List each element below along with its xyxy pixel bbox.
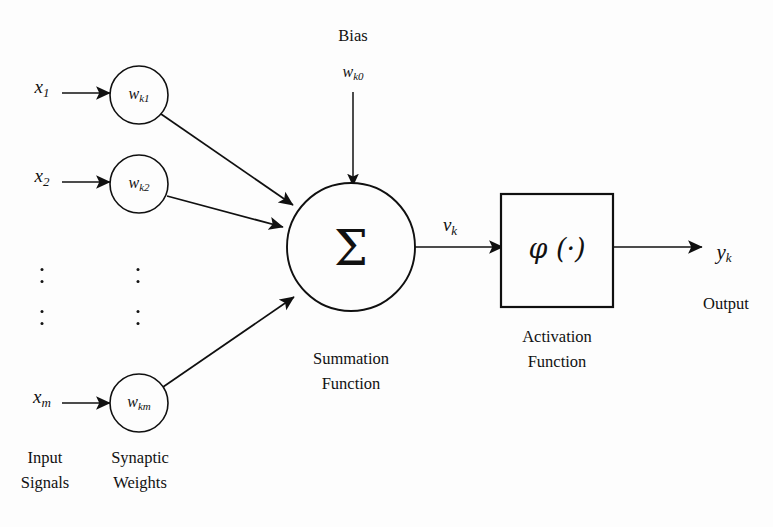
connection-wk1-to-sum [161, 114, 293, 205]
ellipsis-dot [137, 310, 140, 313]
activation-caption: Activation Function [522, 325, 592, 375]
bias-label: Bias [338, 28, 367, 45]
weight-label-wk1: wk1 [128, 86, 149, 104]
ellipsis-dot [41, 280, 44, 283]
summation-caption: Summation Function [313, 347, 389, 397]
activation-caption-line-2: Function [522, 350, 592, 375]
connection-wkm-to-sum [163, 297, 294, 387]
ellipsis-dot [41, 268, 44, 271]
neuron-model-diagram: x1 x2 xm wk1 wk2 wkm Bias wk0 Σ Summatio… [0, 0, 773, 527]
weight-label-wk2: wk2 [128, 175, 149, 193]
ellipsis-dot [41, 322, 44, 325]
activation-symbol: φ (·) [528, 235, 585, 262]
input-signals-caption-line-1: Input [21, 446, 70, 471]
output-label-yk: yk [716, 242, 731, 265]
weight-label-wkm: wkm [127, 394, 151, 412]
summation-caption-line-1: Summation [313, 347, 389, 372]
bias-symbol-wk0: wk0 [342, 64, 363, 82]
ellipsis-dot [137, 268, 140, 271]
summation-caption-line-2: Function [313, 372, 389, 397]
activation-caption-line-1: Activation [522, 325, 592, 350]
input-label-x1: x1 [35, 77, 50, 99]
connection-wk2-to-sum [167, 196, 283, 227]
summation-symbol: Σ [334, 224, 368, 272]
ellipsis-dot [41, 310, 44, 313]
input-signals-caption: Input Signals [21, 446, 70, 496]
input-ellipsis [41, 268, 44, 325]
synaptic-weights-caption-line-1: Synaptic [111, 446, 169, 471]
synaptic-weights-caption: Synaptic Weights [111, 446, 169, 496]
ellipsis-dot [137, 280, 140, 283]
weight-ellipsis [137, 268, 140, 325]
induced-field-label-vk: vk [443, 215, 457, 237]
synaptic-weights-caption-line-2: Weights [111, 471, 169, 496]
input-label-x2: x2 [35, 166, 50, 188]
input-signals-caption-line-2: Signals [21, 471, 70, 496]
output-caption: Output [703, 296, 749, 313]
ellipsis-dot [137, 322, 140, 325]
input-label-xm: xm [33, 387, 51, 409]
